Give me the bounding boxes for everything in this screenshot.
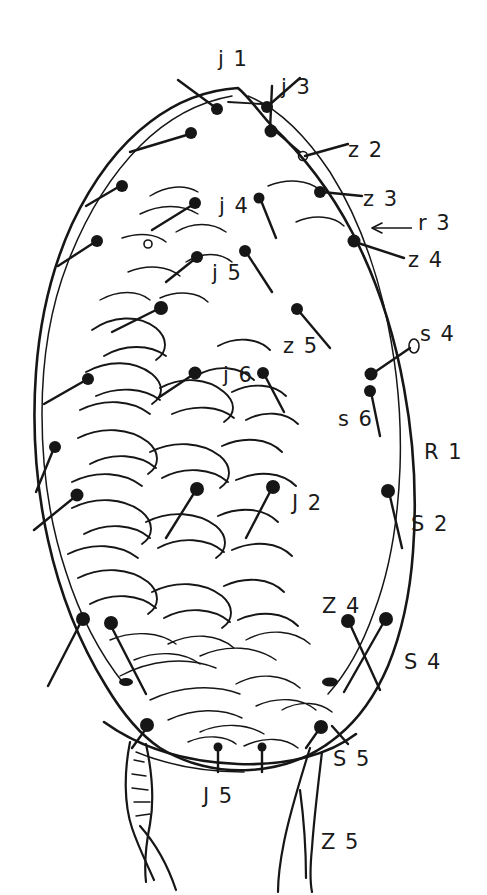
label-s6: s 6	[338, 407, 373, 431]
seta-shaft-S2	[389, 492, 402, 548]
mite-dorsal-shield-drawing: j 1 j 3 z 2 j 4 z 3 r 3 z 4 j 5 s 4 z 5 …	[0, 0, 487, 895]
seta-base-S4	[379, 612, 393, 626]
label-r3: r 3	[418, 211, 451, 235]
seta-base-z5	[291, 303, 303, 315]
seta-base-j4	[189, 197, 201, 209]
seta-base-J5-left	[214, 743, 223, 752]
label-Z4: Z 4	[322, 594, 361, 618]
seta-base-j1-left	[211, 103, 223, 115]
seta-base-S4-left	[104, 616, 118, 630]
label-j3: j 3	[280, 75, 311, 99]
label-J2: J 2	[290, 491, 323, 515]
seta-labels-group: j 1 j 3 z 2 j 4 z 3 r 3 z 4 j 5 s 4 z 5 …	[201, 47, 463, 854]
appendage-right-branch	[300, 790, 306, 878]
seta-base-mid-left	[154, 301, 168, 315]
appendage-right-inner	[311, 752, 323, 892]
label-J5: J 5	[201, 784, 234, 808]
label-j1: j 1	[217, 47, 248, 71]
seta-base-lat-left-3	[71, 489, 84, 502]
seta-base-z3	[314, 186, 326, 198]
label-z3: z 3	[363, 187, 399, 211]
seta-base-j6-right	[257, 367, 269, 379]
seta-base-lat-left-1	[82, 373, 94, 385]
label-z2: z 2	[348, 138, 384, 162]
seta-shaft-z2-left	[130, 134, 190, 152]
seta-base-S2	[381, 484, 395, 498]
seta-base-z3-left	[116, 180, 128, 192]
seta-shaft-S4	[344, 620, 385, 692]
seta-shaft-j3	[270, 86, 272, 130]
seta-shaft-lat-left-2	[36, 448, 54, 492]
seta-base-z4	[348, 235, 361, 248]
label-Z5: Z 5	[321, 830, 360, 854]
gland-pore-s4	[409, 339, 419, 353]
appendage-left-inner	[145, 744, 152, 882]
label-z4: z 4	[408, 248, 444, 272]
seta-base-lat-left-2	[49, 441, 61, 453]
seta-base-J5-right	[258, 743, 267, 752]
gland-pore-posterior-left	[119, 678, 133, 686]
seta-shaft-j4-right	[260, 198, 276, 238]
label-S5: S 5	[333, 747, 371, 771]
gland-pore-posterior-right	[322, 678, 338, 687]
seta-base-j3	[265, 125, 278, 138]
seta-base-S5	[314, 720, 328, 734]
seta-shaft-lat-left-1	[44, 380, 86, 404]
label-j5: j 5	[211, 261, 242, 285]
seta-shaft-j1-left	[178, 80, 216, 108]
seta-shaft-J2	[246, 488, 272, 538]
seta-base-s4	[365, 368, 378, 381]
seta-shaft-j5-right	[246, 252, 272, 292]
seta-shaft-mid-left	[112, 308, 160, 332]
seta-shaft-Z4-left	[48, 620, 82, 686]
r3-arrow-pointer	[372, 223, 412, 233]
seta-base-z2-left	[185, 127, 197, 139]
seta-shaft-s4	[372, 348, 410, 374]
posterior-appendages	[126, 742, 322, 892]
seta-base-j5	[191, 251, 203, 263]
label-j4: j 4	[218, 194, 249, 218]
gland-pore-left	[144, 240, 152, 248]
seta-base-j6	[189, 367, 202, 380]
seta-base-Z4-left	[76, 612, 90, 626]
figure-canvas: j 1 j 3 z 2 j 4 z 3 r 3 z 4 j 5 s 4 z 5 …	[0, 0, 487, 895]
seta-base-j5-right	[239, 245, 251, 257]
label-z5: z 5	[283, 334, 319, 358]
seta-base-z4-left	[91, 235, 103, 247]
label-S2: S 2	[411, 512, 449, 536]
label-s4: s 4	[420, 322, 455, 346]
label-R1: R 1	[424, 440, 463, 464]
seta-base-J2-left	[190, 482, 204, 496]
seta-base-S5-left	[140, 718, 154, 732]
seta-base-s6	[364, 385, 376, 397]
seta-base-J2	[266, 480, 280, 494]
seta-base-j4-right	[254, 193, 265, 204]
label-S4: S 4	[404, 650, 442, 674]
label-j6: j 6	[222, 363, 253, 387]
